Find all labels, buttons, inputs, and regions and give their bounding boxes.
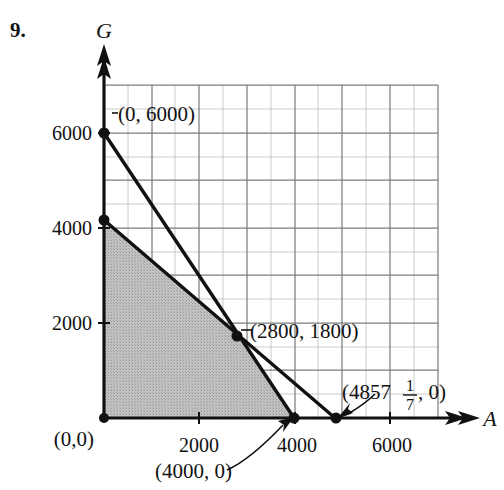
label-2800-1800: (2800, 1800) bbox=[250, 319, 359, 343]
figure-container: 9. bbox=[0, 0, 504, 490]
label-4000-0: (4000, 0) bbox=[155, 459, 232, 483]
y-axis-label: G bbox=[96, 18, 112, 43]
x-tick-label-2000: 2000 bbox=[179, 434, 219, 456]
label-4857-0-tail: , 0) bbox=[418, 380, 446, 404]
x-tick-label-6000: 6000 bbox=[372, 434, 412, 456]
y-tick-label-6000: 6000 bbox=[52, 122, 92, 144]
y-tick-label-2000: 2000 bbox=[52, 312, 92, 334]
label-origin: (0,0) bbox=[54, 427, 94, 451]
point-y-intercept-line2 bbox=[99, 215, 110, 226]
label-4857-0-numerator: 1 bbox=[406, 377, 414, 394]
point-4857-0 bbox=[331, 413, 342, 424]
x-tick-label-4000: 4000 bbox=[277, 434, 317, 456]
y-tick-label-4000: 4000 bbox=[52, 217, 92, 239]
label-0-6000: (0, 6000) bbox=[118, 102, 195, 126]
label-4857-0-denominator: 7 bbox=[406, 396, 414, 413]
label-4857-0-whole: (4857 bbox=[342, 380, 391, 404]
problem-number: 9. bbox=[10, 18, 26, 43]
leader-arrow-4000-0 bbox=[227, 425, 283, 470]
point-2800-1800 bbox=[232, 331, 243, 342]
x-axis-label: A bbox=[481, 406, 497, 431]
graph-svg: 2000 4000 6000 2000 4000 6000 G A bbox=[0, 0, 504, 490]
point-origin bbox=[99, 413, 109, 423]
point-0-6000 bbox=[99, 128, 110, 139]
